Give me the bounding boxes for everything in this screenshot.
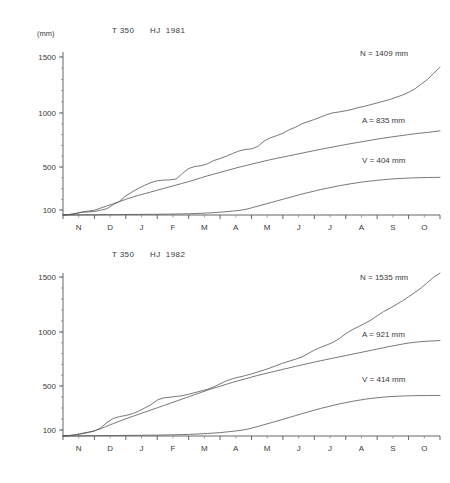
x-tick-label-s: S [390,223,395,232]
y-tick-label: 1000 [38,109,56,118]
y-tick-label: 1500 [38,53,56,62]
series-annotation-N: N = 1409 mm [360,49,409,58]
y-tick-label: 1000 [38,328,56,337]
series-line-N [63,273,440,436]
x-tick-label-j: J [297,444,301,453]
x-tick-label-m: M [201,444,208,453]
series-annotation-A: A = 921 mm [362,330,405,339]
series-annotation-A: A = 835 mm [362,116,405,125]
x-tick-label-j: J [328,223,332,232]
y-tick-label: 1500 [38,273,56,282]
x-tick-label-o: O [421,223,427,232]
x-tick-label-j: J [140,444,144,453]
series-line-A [63,341,440,436]
series-line-N [63,67,440,215]
x-tick-label-m: M [264,223,271,232]
x-tick-label-f: F [171,444,176,453]
y-tick-label: 500 [43,163,57,172]
x-tick-label-a: A [359,444,365,453]
x-tick-label-d: D [107,444,113,453]
series-annotation-V: V = 404 mm [362,156,406,165]
plot-area-1982: 10050010001500NDJFMAMJJASON = 1535 mmA =… [0,240,450,483]
y-tick-label: 500 [43,382,57,391]
x-tick-label-j: J [140,223,144,232]
x-tick-label-f: F [171,223,176,232]
x-tick-label-o: O [421,444,427,453]
x-tick-label-n: N [76,223,82,232]
series-line-A [63,131,440,215]
chart-panel-1982: T 350 HJ 1982 10050010001500NDJFMAMJJASO… [0,240,450,480]
x-tick-label-n: N [76,444,82,453]
chart-panel-1981: T 350 HJ 1981 (mm) 10050010001500NDJFMAM… [0,0,450,240]
series-annotation-N: N = 1535 mm [360,273,409,282]
x-tick-label-j: J [297,223,301,232]
series-line-V [63,177,440,215]
x-tick-label-d: D [107,223,113,232]
y-tick-label: 100 [43,426,57,435]
y-tick-label: 100 [43,206,57,215]
series-line-V [63,395,440,436]
series-annotation-V: V = 414 mm [362,375,406,384]
x-tick-label-s: S [390,444,395,453]
x-tick-label-j: J [328,444,332,453]
x-tick-label-m: M [264,444,271,453]
x-tick-label-a: A [233,444,239,453]
x-tick-label-a: A [233,223,239,232]
x-tick-label-m: M [201,223,208,232]
x-tick-label-a: A [359,223,365,232]
plot-area-1981: 10050010001500NDJFMAMJJASON = 1409 mmA =… [0,0,450,240]
chart-page: T 350 HJ 1981 (mm) 10050010001500NDJFMAM… [0,0,450,483]
